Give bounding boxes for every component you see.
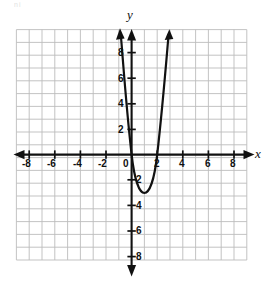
y-tick-label: 4 — [136, 200, 142, 211]
coordinate-plane — [0, 0, 268, 289]
y-tick-label: 2 — [136, 174, 142, 185]
y-axis-label: y — [127, 7, 133, 23]
y-tick-label: 8 — [118, 47, 124, 58]
x-tick-label: 4 — [179, 158, 185, 169]
origin-label: 0 — [123, 158, 129, 169]
y-tick-label: 8 — [136, 251, 142, 262]
x-tick-label: -6 — [47, 158, 56, 169]
y-tick-label: 6 — [118, 73, 124, 84]
x-axis-label: x — [255, 146, 261, 162]
graph-figure: ni — [0, 0, 268, 289]
y-tick-label: 6 — [136, 225, 142, 236]
x-tick-label: 2 — [154, 158, 160, 169]
x-tick-label: -2 — [98, 158, 107, 169]
y-tick-label: 2 — [118, 124, 124, 135]
x-tick-label: -4 — [73, 158, 82, 169]
x-tick-label: 6 — [205, 158, 211, 169]
x-tick-label: 8 — [230, 158, 236, 169]
y-tick-label: 4 — [118, 98, 124, 109]
x-tick-label: -8 — [22, 158, 31, 169]
